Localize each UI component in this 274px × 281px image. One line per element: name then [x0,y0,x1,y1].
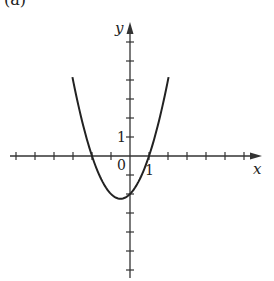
y-tick-label-1: 1 [117,129,126,145]
x-axis-label: x [253,160,262,178]
plot-area: x y 0 1 1 [0,0,274,281]
graph-figure: (a) x y 0 1 1 [0,0,274,281]
y-axis-label: y [114,19,124,37]
origin-label: 0 [117,157,126,173]
panel-label: (a) [4,0,26,9]
x-tick-label-1: 1 [145,162,154,178]
y-axis-arrow-icon [127,22,134,34]
axes [10,22,262,278]
x-axis-arrow-icon [250,153,262,160]
